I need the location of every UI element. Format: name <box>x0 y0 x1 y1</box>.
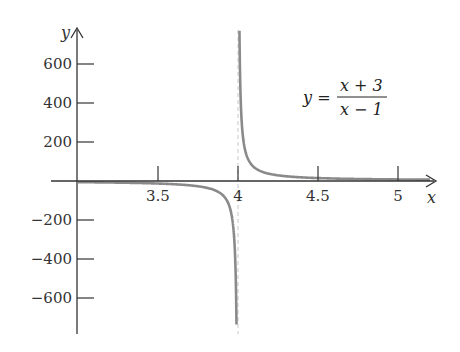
y-tick-label: −400 <box>31 250 72 268</box>
x-tick-label: 5 <box>393 187 403 205</box>
x-tick-label: 3.5 <box>146 187 170 205</box>
y-tick-label: −200 <box>31 211 72 229</box>
y-tick-label: 200 <box>43 133 72 151</box>
x-tick-label: 4.5 <box>306 187 330 205</box>
y-tick-label: 600 <box>43 55 72 73</box>
y-tick-label: −600 <box>31 289 72 307</box>
x-axis-label: x <box>427 188 436 207</box>
y-axis: y 600400200−200−400−600 <box>31 23 94 334</box>
chart-canvas: x 3.544.55 y 600400200−200−400−600 y = x… <box>0 0 460 352</box>
x-axis: x 3.544.55 <box>51 166 436 207</box>
formula-annotation: y = x + 3 x − 1 <box>302 76 387 119</box>
formula-numerator: x + 3 <box>340 76 383 95</box>
formula-lhs: y = <box>302 88 331 107</box>
curve-right-branch <box>239 31 430 180</box>
y-tick-label: 400 <box>43 94 72 112</box>
formula-denominator: x − 1 <box>340 100 383 119</box>
y-axis-label: y <box>60 23 71 42</box>
x-tick-label: 4 <box>233 187 243 205</box>
